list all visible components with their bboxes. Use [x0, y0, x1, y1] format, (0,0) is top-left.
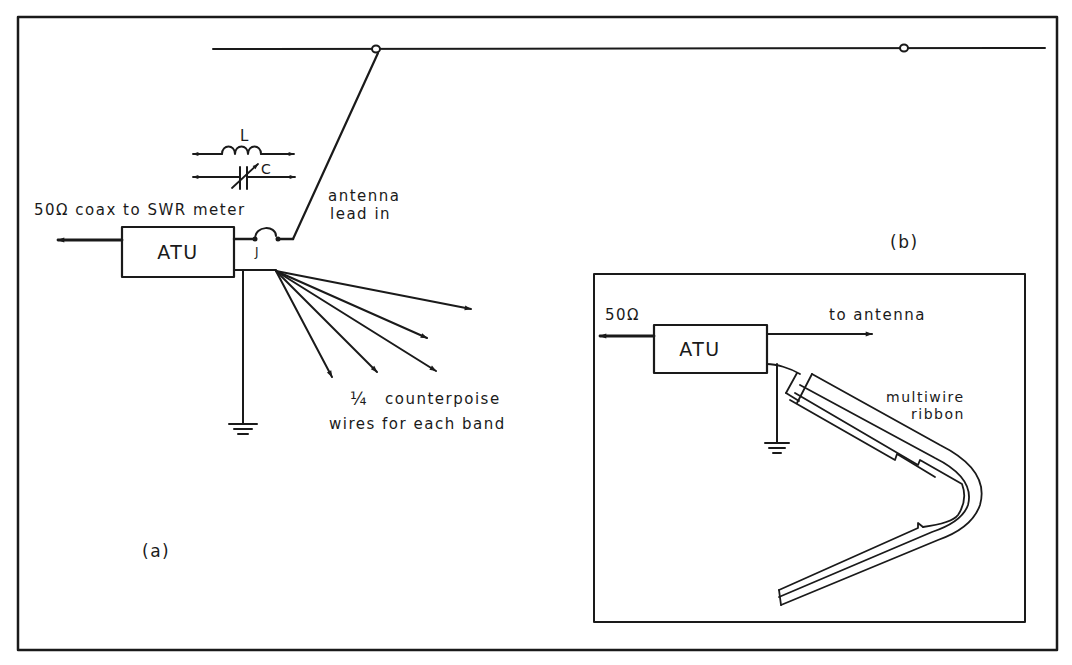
ground-icon-b: [765, 443, 789, 453]
to-antenna-label: to antenna: [829, 306, 926, 324]
panel-b-label: (b): [890, 232, 919, 252]
panel-a-label: (a): [142, 541, 170, 561]
inductor-coil: [222, 147, 261, 155]
atu-label-b: ATU: [679, 338, 721, 360]
jumper-terminal-right: [276, 237, 281, 242]
capacitor-label: C: [261, 161, 272, 177]
ribbon-label-line1: multiwire: [886, 389, 965, 405]
insulator-right: [900, 45, 908, 52]
lead-in-label-line2: lead in: [330, 205, 391, 223]
counterpoise-label-line2: wires for each band: [329, 415, 506, 433]
counterpoise-wires: [276, 271, 471, 377]
junction-label: J: [254, 245, 260, 259]
jumper-link: [255, 228, 276, 239]
ribbon-label-line2: ribbon: [911, 406, 965, 422]
panel-b: (b) 50Ω ATU to antenna: [594, 232, 1025, 622]
ground-icon-a: [229, 424, 257, 434]
inset-frame: [594, 274, 1025, 622]
lead-in-label-line1: antenna: [328, 187, 401, 205]
ribbon-feed: [767, 364, 800, 374]
coax-label: 50Ω coax to SWR meter: [34, 201, 246, 219]
variable-capacitor-arrow: [232, 164, 258, 188]
impedance-label: 50Ω: [605, 306, 640, 324]
counterpoise-fraction: ¼: [350, 389, 368, 409]
insulator-left: [372, 46, 380, 53]
antenna-wire: [213, 48, 1045, 49]
counterpoise-label-line1: counterpoise: [385, 390, 501, 408]
panel-a: J L C 50Ω coax to SWR meter ATU antenna …: [34, 45, 1045, 562]
antenna-diagram: J L C 50Ω coax to SWR meter ATU antenna …: [0, 0, 1072, 665]
inductor-label: L: [240, 127, 250, 145]
atu-label-a: ATU: [157, 241, 199, 263]
